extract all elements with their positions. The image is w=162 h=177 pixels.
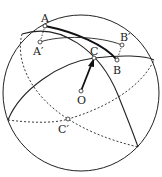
vector-OC (81, 63, 92, 91)
label-C-prime: C′ (58, 123, 69, 136)
label-A: A (40, 12, 50, 25)
arc-AB (45, 26, 117, 60)
arc-A-prime-B-prime (40, 37, 122, 45)
point-C-prime (66, 117, 70, 121)
point-O (79, 89, 83, 93)
label-O: O (77, 94, 86, 107)
point-B (115, 58, 119, 62)
sphere-diagram: A A′ B′ B C O C′ (0, 0, 162, 177)
great-circle-2-front (8, 56, 154, 120)
connector-A-A-prime (40, 26, 45, 42)
label-B: B (113, 64, 121, 77)
label-A-prime: A′ (32, 45, 44, 58)
point-A-prime (38, 40, 42, 44)
diagram-canvas: A A′ B′ B C O C′ (0, 0, 162, 177)
label-C: C (90, 45, 98, 58)
label-B-prime: B′ (120, 31, 131, 44)
